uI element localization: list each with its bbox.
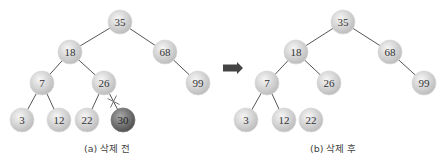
svg-text:22: 22 xyxy=(82,114,93,126)
node-before-26: 26 xyxy=(92,71,116,95)
svg-text:99: 99 xyxy=(419,77,431,89)
node-after-3: 3 xyxy=(234,108,258,132)
svg-text:26: 26 xyxy=(99,77,111,89)
node-before-68: 68 xyxy=(153,40,177,64)
node-after-68: 68 xyxy=(378,40,402,64)
svg-text:68: 68 xyxy=(160,46,172,58)
cut-mark-icon xyxy=(108,96,120,108)
svg-text:68: 68 xyxy=(385,46,397,58)
svg-text:7: 7 xyxy=(264,77,270,89)
node-after-18: 18 xyxy=(284,40,308,64)
node-after-35: 35 xyxy=(331,10,355,34)
heap-deletion-diagram: 3518687269931222303518687269931222 (a) 삭… xyxy=(0,0,442,163)
svg-text:12: 12 xyxy=(279,114,290,126)
node-before-18: 18 xyxy=(58,40,82,64)
node-after-99: 99 xyxy=(412,71,436,95)
caption-before: (a) 삭제 전 xyxy=(84,141,130,155)
svg-text:22: 22 xyxy=(306,114,317,126)
node-before-12: 12 xyxy=(47,108,71,132)
caption-after: (b) 삭제 후 xyxy=(310,141,356,155)
svg-text:3: 3 xyxy=(243,114,249,126)
node-before-99: 99 xyxy=(186,71,210,95)
node-before-30: 30 xyxy=(111,108,135,132)
node-before-7: 7 xyxy=(30,71,54,95)
node-after-26: 26 xyxy=(317,71,341,95)
transition-arrow-icon xyxy=(223,62,243,74)
node-before-3: 3 xyxy=(10,108,34,132)
node-after-12: 12 xyxy=(272,108,296,132)
svg-text:35: 35 xyxy=(338,16,350,28)
tree-canvas: 3518687269931222303518687269931222 xyxy=(0,0,442,163)
svg-text:18: 18 xyxy=(291,46,303,58)
svg-text:7: 7 xyxy=(39,77,45,89)
svg-text:26: 26 xyxy=(324,77,336,89)
svg-text:3: 3 xyxy=(19,114,25,126)
svg-text:12: 12 xyxy=(54,114,65,126)
node-after-7: 7 xyxy=(255,71,279,95)
svg-text:30: 30 xyxy=(118,114,130,126)
node-before-22: 22 xyxy=(75,108,99,132)
svg-text:35: 35 xyxy=(115,16,127,28)
node-before-35: 35 xyxy=(108,10,132,34)
svg-text:99: 99 xyxy=(193,77,205,89)
node-after-22: 22 xyxy=(299,108,323,132)
svg-text:18: 18 xyxy=(65,46,77,58)
